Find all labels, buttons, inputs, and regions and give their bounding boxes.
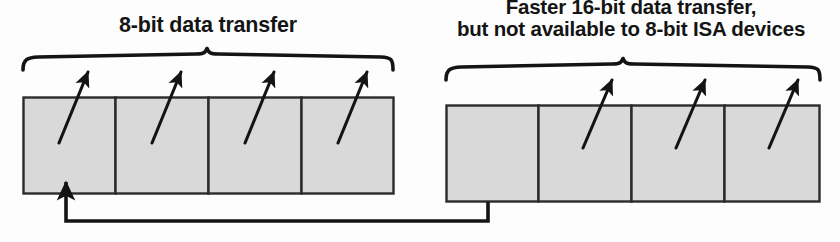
diagram-vector-layer (0, 0, 840, 242)
bus-byte-lanes-diagram: 8-bit data transfer Faster 16-bit data t… (0, 0, 840, 242)
right-group-brace (446, 59, 820, 81)
byte-cell-2 (209, 98, 302, 194)
byte-cell-6 (632, 106, 725, 202)
byte-cell-4 (447, 106, 539, 202)
byte-cell-0 (24, 98, 116, 194)
byte-cell-7 (725, 106, 820, 202)
low-byte-group (24, 98, 394, 194)
left-group-brace (23, 49, 393, 71)
high-byte-group (447, 106, 820, 202)
byte-cell-1 (116, 98, 209, 194)
byte-cell-5 (539, 106, 632, 202)
byte-cell-3 (302, 98, 394, 194)
